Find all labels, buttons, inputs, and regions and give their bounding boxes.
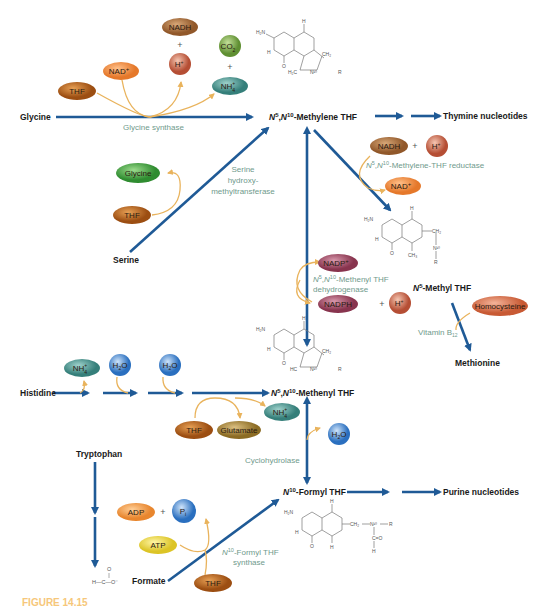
enzyme-glycine-synthase: Glycine synthase: [123, 123, 184, 132]
svg-text:CH₂: CH₂: [322, 51, 331, 57]
svg-text:+: +: [227, 62, 232, 72]
svg-text:H: H: [267, 346, 271, 352]
oval-nad-1: NAD+: [103, 62, 139, 80]
compound-labels: Glycine N5,N10-Methylene THF Thymine nuc…: [20, 111, 528, 586]
oval-h-plus-2: H+: [426, 135, 448, 157]
oval-co2: CO2: [219, 35, 241, 57]
enzyme-vitamin-b12: Vitamin B12: [418, 328, 458, 338]
svg-text:N¹⁰: N¹⁰: [370, 521, 377, 527]
oval-h2o-2: H2O: [159, 354, 181, 376]
svg-text:H: H: [302, 18, 306, 24]
svg-text:THF: THF: [124, 211, 140, 220]
oval-adp: ADP: [117, 503, 155, 521]
svg-text:CH₂: CH₂: [432, 228, 441, 234]
folate-pathway-diagram: THF NAD+ NADH + H+ CO2 + NH+4 Glycine: [0, 0, 551, 607]
oval-nad-2: NAD+: [385, 177, 421, 195]
svg-text:+: +: [160, 507, 165, 517]
label-formyl-thf: N10-Formyl THF: [283, 487, 346, 497]
svg-text:O: O: [282, 360, 286, 366]
label-methenyl-thf: N5,N10-Methenyl THF: [271, 388, 354, 398]
svg-text:methyltransferase: methyltransferase: [211, 187, 275, 196]
enzyme-labels: Glycine synthase Serine hydroxy- methylt…: [123, 123, 485, 567]
oval-nh4-2: NH+4: [64, 359, 100, 377]
svg-text:NADH: NADH: [378, 142, 401, 151]
svg-text:H: H: [410, 205, 414, 211]
oval-pi: Pi: [172, 499, 196, 523]
structure-methylene-thf: H₂N H O H H₂C N¹⁰ CH₂ R: [256, 18, 342, 75]
oval-h2o-3: H2O: [328, 423, 350, 445]
formate-structure: O H—C—O⁻: [92, 566, 118, 585]
oval-nadh-2: NADH: [370, 137, 408, 155]
svg-text:H: H: [267, 49, 271, 55]
svg-text:NADH: NADH: [169, 23, 192, 32]
svg-text:+: +: [177, 40, 182, 50]
label-methyl-thf: N5-Methyl THF: [413, 283, 471, 293]
svg-text:H₂N: H₂N: [284, 509, 294, 515]
svg-text:H: H: [330, 544, 334, 550]
svg-text:N¹⁰: N¹⁰: [310, 366, 317, 372]
reagent-ovals: THF NAD+ NADH + H+ CO2 + NH+4 Glycine: [58, 18, 528, 592]
oval-atp: ATP: [139, 536, 177, 554]
svg-text:THF: THF: [186, 426, 202, 435]
oval-h2o-1: H2O: [109, 354, 131, 376]
structure-methyl-thf: H₂N H O H CH₃ CH₂ N¹⁰ R: [364, 205, 441, 265]
structure-formyl-thf: H₂N H O H H CH₂ N¹⁰ R C=O H: [284, 498, 393, 554]
svg-text:Homocysteine: Homocysteine: [475, 302, 526, 311]
svg-text:NADPH: NADPH: [324, 300, 352, 309]
oval-nh4-1: NH+4: [212, 77, 248, 95]
label-thymine-nucleotides: Thymine nucleotides: [443, 111, 528, 121]
svg-text:H: H: [375, 236, 379, 242]
structure-methenyl-thf: H₂N H O H HC N¹⁰ CH₂ R: [256, 315, 342, 372]
svg-text:O: O: [282, 63, 286, 69]
methyl-to-methionine-arrow: [452, 303, 470, 350]
label-glycine: Glycine: [20, 112, 51, 122]
svg-text:O: O: [390, 250, 394, 256]
oval-nadph: NADPH: [318, 295, 358, 313]
enzyme-mthfr: N5,N10-Methylene-THF reductase: [366, 160, 485, 170]
svg-text:O: O: [107, 566, 112, 572]
oval-thf-1: THF: [58, 82, 96, 100]
svg-text:Glycine: Glycine: [125, 169, 152, 178]
oval-thf-2: THF: [113, 206, 151, 224]
oval-nadp: NADP+: [318, 254, 358, 272]
oval-thf-3: THF: [175, 421, 213, 439]
svg-text:H₂N: H₂N: [256, 326, 266, 332]
oval-glutamate: Glutamate: [217, 421, 261, 439]
svg-text:H—C—O⁻: H—C—O⁻: [92, 579, 118, 585]
svg-text:H: H: [330, 498, 334, 504]
enzyme-fthfs: N10-Formyl THF: [222, 547, 279, 557]
oval-thf-4: THF: [194, 574, 232, 592]
figure-caption: FIGURE 14.15: [22, 597, 88, 607]
svg-text:H: H: [295, 529, 299, 535]
oval-glycine: Glycine: [116, 163, 160, 183]
svg-text:N¹⁰: N¹⁰: [310, 69, 317, 75]
svg-text:H₂N: H₂N: [256, 29, 266, 35]
svg-text:THF: THF: [205, 579, 221, 588]
svg-text:H₂N: H₂N: [364, 216, 374, 222]
svg-text:Glutamate: Glutamate: [221, 426, 258, 435]
svg-text:synthase: synthase: [233, 558, 266, 567]
svg-text:hydroxy-: hydroxy-: [228, 176, 259, 185]
label-methionine: Methionine: [455, 358, 500, 368]
enzyme-mthfd: N5,N10-Methenyl THF: [313, 274, 389, 284]
oval-h-plus-1: H+: [169, 53, 191, 75]
label-purine-nucleotides: Purine nucleotides: [443, 487, 519, 497]
oval-nadh-1: NADH: [162, 18, 198, 36]
svg-text:ADP: ADP: [128, 508, 144, 517]
enzyme-cyclohydrolase: Cyclohydrolase: [245, 456, 300, 465]
svg-text:ATP: ATP: [151, 541, 166, 550]
label-histidine: Histidine: [20, 388, 56, 398]
label-serine: Serine: [113, 255, 139, 265]
svg-text:dehydrogenase: dehydrogenase: [313, 285, 369, 294]
svg-text:H: H: [372, 548, 376, 554]
svg-text:+: +: [412, 141, 417, 151]
label-tryptophan: Tryptophan: [76, 449, 122, 459]
svg-text:THF: THF: [69, 87, 85, 96]
svg-text:CH₃: CH₃: [408, 252, 417, 258]
svg-text:R: R: [434, 259, 438, 265]
oval-h-plus-3: H+: [389, 292, 411, 314]
svg-text:CH₂: CH₂: [350, 521, 359, 527]
svg-text:+: +: [379, 299, 384, 309]
svg-text:R: R: [338, 366, 342, 372]
svg-text:CH₂: CH₂: [322, 348, 331, 354]
